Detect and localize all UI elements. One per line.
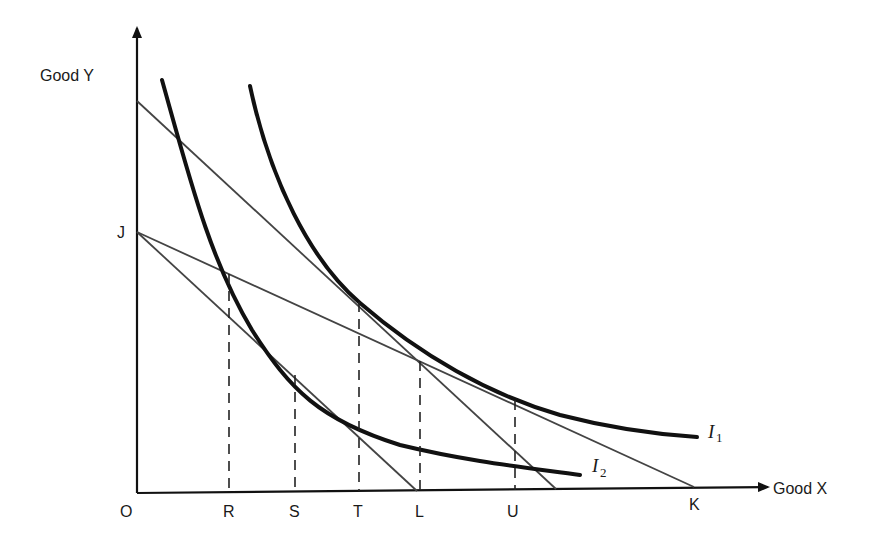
budget-line-upper [137, 101, 556, 489]
x-point-t-label: T [353, 503, 363, 520]
svg-text:2: 2 [600, 465, 607, 480]
indifference-curve-i2 [162, 80, 580, 475]
indifference-curve-diagram: Good Y Good X O J R S T L U K I 1 I 2 [0, 0, 887, 553]
svg-text:I: I [707, 421, 716, 442]
svg-text:I: I [591, 455, 600, 476]
indifference-curve-i1 [250, 86, 697, 437]
y-axis-label: Good Y [40, 67, 94, 84]
x-point-l-label: L [415, 503, 424, 520]
svg-text:1: 1 [716, 430, 723, 445]
curve-label-i1: I 1 [707, 421, 723, 445]
budget-line-jl [137, 232, 417, 491]
x-point-s-label: S [289, 503, 300, 520]
origin-label: O [120, 503, 132, 520]
x-point-r-label: R [223, 503, 235, 520]
y-point-j-label: J [117, 224, 125, 241]
x-point-u-label: U [507, 503, 519, 520]
x-axis-label: Good X [773, 480, 828, 497]
x-point-k-label: K [689, 496, 700, 513]
curve-label-i2: I 2 [591, 455, 607, 480]
x-axis [137, 487, 768, 493]
